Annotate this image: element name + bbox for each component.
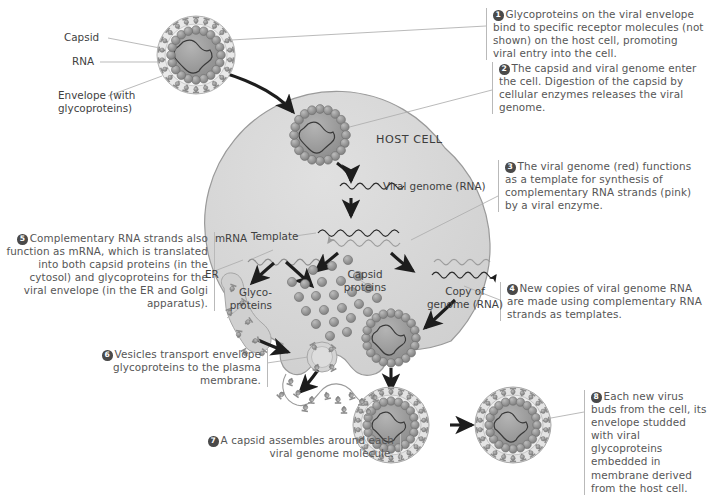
step-number-6: 6 <box>102 350 113 361</box>
step-number-8: 8 <box>591 392 602 403</box>
step-callout-7: 7A capsid assembles around each viral ge… <box>196 434 401 460</box>
step-number-5: 5 <box>17 234 28 245</box>
label-copy-of-genome: Copy of genome (RNA) <box>424 285 506 310</box>
label-mrna: mRNA <box>215 232 247 245</box>
label-rna: RNA <box>72 55 94 68</box>
step-text-4: New copies of viral genome RNA are made … <box>507 282 702 320</box>
released-virus <box>475 387 551 463</box>
label-host-cell: HOST CELL <box>376 133 443 146</box>
label-viral-genome: Viral genome (RNA) <box>383 180 486 193</box>
step-text-2: The capsid and viral genome enter the ce… <box>499 62 696 113</box>
step-callout-8: 8Each new virus buds from the cell, its … <box>584 390 711 495</box>
label-template: Template <box>251 230 298 243</box>
step-callout-6: 6Vesicles transport envelope glycoprotei… <box>56 348 268 387</box>
step-text-1: Glycoproteins on the viral envelope bind… <box>493 8 704 59</box>
step-callout-1: 1Glycoproteins on the viral envelope bin… <box>486 8 704 60</box>
step-callout-4: 4New copies of viral genome RNA are made… <box>500 282 702 321</box>
step-number-7: 7 <box>208 436 219 447</box>
step-text-5: Complementary RNA strands also function … <box>6 232 208 309</box>
step-number-3: 3 <box>505 162 516 173</box>
step-text-8: Each new virus buds from the cell, its e… <box>591 390 707 494</box>
step-callout-3: 3The viral genome (red) functions as a t… <box>498 160 706 212</box>
step-number-4: 4 <box>507 284 518 295</box>
step-text-3: The viral genome (red) functions as a te… <box>505 160 691 211</box>
label-capsid: Capsid <box>64 31 99 44</box>
step-text-7: A capsid assembles around each viral gen… <box>221 434 394 459</box>
label-er: ER <box>205 268 219 281</box>
label-glycoproteins: Glyco- proteins <box>222 286 272 311</box>
free-virus-particle-labeled <box>157 16 235 94</box>
label-capsid-proteins: Capsid proteins <box>336 268 394 293</box>
step-number-2: 2 <box>499 64 510 75</box>
step-callout-5: 5Complementary RNA strands also function… <box>4 232 215 311</box>
step-number-1: 1 <box>493 10 504 21</box>
label-envelope: Envelope (with glycoproteins) <box>58 89 135 114</box>
step-callout-2: 2The capsid and viral genome enter the c… <box>492 62 704 114</box>
step-text-6: Vesicles transport envelope glycoprotein… <box>113 348 261 386</box>
